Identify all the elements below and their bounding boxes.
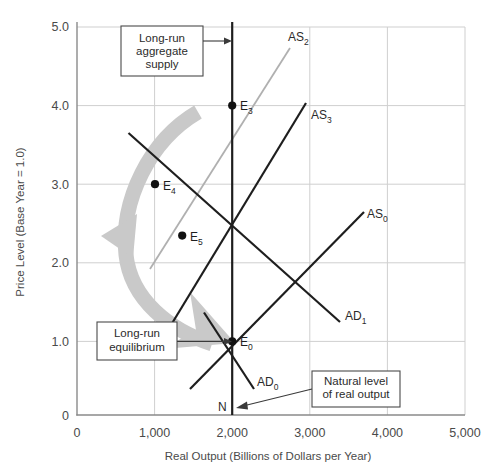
y-tick-0: 0 (62, 409, 69, 423)
chart-svg: E0 E3 E4 E5 AS2 AS3 AS0 AD1 AD0 N Long-r… (0, 0, 499, 468)
callout-lreq-line1: Long-run (114, 327, 160, 339)
curve-label-N: N (218, 400, 227, 414)
y-tick-2: 2.0 (52, 256, 69, 270)
y-tick-1: 1.0 (52, 335, 69, 349)
x-tick-3000: 3,000 (294, 426, 325, 440)
callout-lras-line3: supply (145, 58, 178, 70)
x-tick-0: 0 (74, 426, 81, 440)
callout-lreq-line2: equilibrium (109, 341, 165, 353)
x-tick-2000: 2,000 (217, 426, 248, 440)
callout-natural-line1: Natural level (324, 375, 388, 387)
callout-lras-line2: aggregate (136, 45, 188, 57)
x-axis-label: Real Output (Billions of Dollars per Yea… (165, 450, 372, 462)
point-E3 (228, 102, 236, 110)
callout-natural-line2: of real output (322, 388, 390, 400)
y-axis-label: Price Level (Base Year = 1.0) (14, 147, 26, 296)
callout-lras-line1: Long-run (139, 32, 185, 44)
x-tick-4000: 4,000 (372, 426, 403, 440)
y-tick-4: 4.0 (52, 99, 69, 113)
x-tick-5000: 5,000 (449, 426, 480, 440)
y-tick-3: 3.0 (52, 178, 69, 192)
y-tick-5: 5.0 (52, 20, 69, 34)
aggregate-supply-demand-figure: E0 E3 E4 E5 AS2 AS3 AS0 AD1 AD0 N Long-r… (0, 0, 499, 468)
point-E4 (151, 180, 159, 188)
x-tick-1000: 1,000 (139, 426, 170, 440)
chart-background (0, 0, 499, 468)
point-E5 (178, 232, 186, 240)
